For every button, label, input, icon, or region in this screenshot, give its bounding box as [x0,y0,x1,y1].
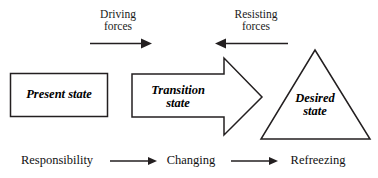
step-responsibility-label: Responsibility [21,154,93,167]
resisting-forces-line2: forces [235,20,278,32]
change-management-diagram: Driving forces Resisting forces Present … [0,0,378,178]
present-state-line1: Present state [26,87,92,101]
driving-forces-line1: Driving [100,8,136,20]
transition-state-line1: Transition [151,83,205,97]
present-state-label: Present state [26,88,92,101]
step-changing-label: Changing [167,154,216,167]
driving-forces-label: Driving forces [100,8,136,32]
step-refreezing-text: Refreezing [291,153,346,167]
desired-state-line1: Desired [295,91,335,105]
step-refreezing-label: Refreezing [291,154,346,167]
transition-state-line2: state [151,97,205,110]
step-changing-text: Changing [167,153,216,167]
resisting-forces-line1: Resisting [235,8,278,20]
step-arrow-responsibility-to-changing [110,157,157,165]
resisting-forces-arrow [215,38,288,48]
resisting-forces-label: Resisting forces [235,8,278,32]
driving-forces-line2: forces [100,20,136,32]
desired-state-line2: state [295,105,335,118]
desired-state-label: Desired state [295,92,335,118]
transition-state-label: Transition state [151,84,205,110]
driving-forces-arrow [90,38,152,48]
step-arrow-changing-to-refreezing [231,157,278,165]
step-responsibility-text: Responsibility [21,153,93,167]
